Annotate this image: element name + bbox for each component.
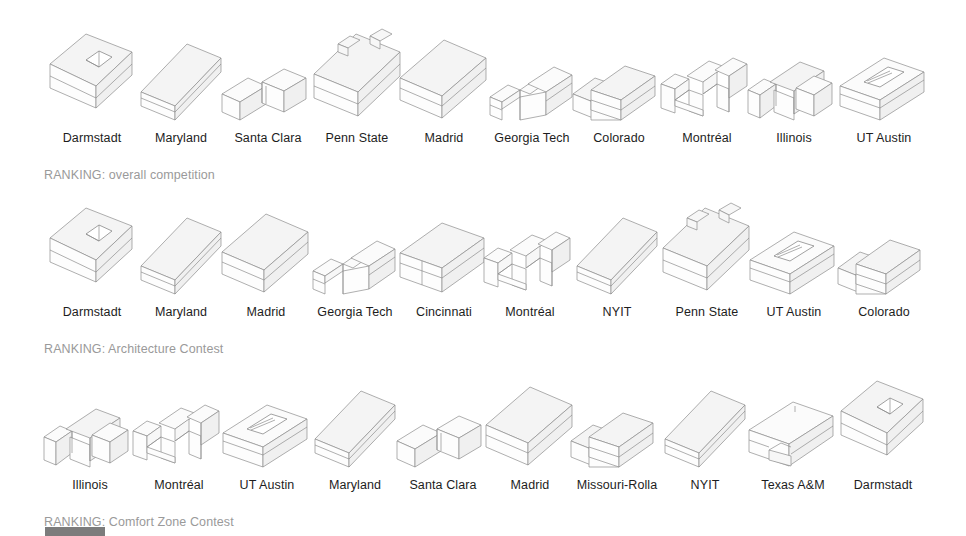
massing-shape-long-shed-slope xyxy=(655,367,751,479)
massing-shape-double-notch-block xyxy=(657,18,753,130)
ranking-row-architecture: DarmstadtMarylandMadridGeorgia TechCinci… xyxy=(0,192,966,324)
entry-label: UT Austin xyxy=(829,130,939,146)
massing-shape-bar-with-roof-slot xyxy=(744,194,840,306)
massing-shape-long-shed-slope xyxy=(305,367,401,479)
label-strip-row-3: IllinoisMontréalUT AustinMarylandSanta C… xyxy=(0,477,966,497)
shape-strip-row-2 xyxy=(0,192,966,304)
shape-strip-row-3 xyxy=(0,365,966,477)
massing-shape-long-shed-slope xyxy=(567,194,663,306)
massing-shape-long-gable-plain xyxy=(216,192,312,304)
massing-shape-gable-with-chimneys xyxy=(657,190,753,302)
massing-shape-double-notch-block xyxy=(480,192,576,304)
massing-shape-long-bar-notch xyxy=(305,195,401,307)
entry-label: Darmstadt xyxy=(828,477,938,493)
massing-shape-stepped-split-low xyxy=(218,22,314,134)
massing-shape-box-hip-roof-skylight xyxy=(833,365,929,477)
massing-shape-twin-slope-offset xyxy=(569,20,665,132)
massing-shape-long-gable-plain xyxy=(394,18,490,130)
massing-shape-twin-box-divided xyxy=(394,193,490,305)
massing-shape-twin-slope-offset xyxy=(567,367,663,479)
massing-shape-bar-with-roof-slot xyxy=(834,20,930,132)
massing-shape-long-gable-plain xyxy=(480,365,576,477)
label-strip-row-2: DarmstadtMarylandMadridGeorgia TechCinci… xyxy=(0,304,966,324)
massing-shape-long-shed-slope xyxy=(131,194,227,306)
massing-shape-split-twin-notch xyxy=(744,20,840,132)
ranking-row-comfort-zone: IllinoisMontréalUT AustinMarylandSanta C… xyxy=(0,365,966,497)
massing-shape-bar-low-ledge xyxy=(743,366,839,478)
massing-shape-long-shed-slope xyxy=(131,20,227,132)
ranking-row-overall: DarmstadtMarylandSanta ClaraPenn StateMa… xyxy=(0,18,966,150)
massing-shape-box-hip-roof-skylight xyxy=(42,18,138,130)
massing-shape-long-bar-notch xyxy=(482,21,578,133)
massing-shape-stepped-split-low xyxy=(393,369,489,481)
label-strip-row-1: DarmstadtMarylandSanta ClaraPenn StateMa… xyxy=(0,130,966,150)
massing-shape-split-twin-notch xyxy=(40,367,136,479)
entry-label: Colorado xyxy=(829,304,939,320)
massing-shape-bar-with-roof-slot xyxy=(217,367,313,479)
ranking-diagram-page: DarmstadtMarylandSanta ClaraPenn StateMa… xyxy=(0,0,966,536)
massing-shape-box-hip-roof-skylight xyxy=(42,192,138,304)
slide-progress-bar xyxy=(45,527,105,536)
massing-shape-twin-slope-offset xyxy=(834,194,930,306)
massing-shape-gable-with-chimneys xyxy=(308,16,404,128)
massing-shape-double-notch-block xyxy=(129,365,225,477)
shape-strip-row-1 xyxy=(0,18,966,130)
ranking-caption-row-2: RANKING: Architecture Contest xyxy=(44,342,223,356)
ranking-caption-row-1: RANKING: overall competition xyxy=(44,168,215,182)
